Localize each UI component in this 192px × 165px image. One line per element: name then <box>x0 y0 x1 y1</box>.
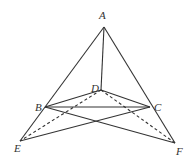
segment-DC <box>101 90 150 107</box>
segment-DE <box>20 90 101 141</box>
label-A: A <box>98 9 106 21</box>
segment-AD <box>101 27 104 90</box>
point-labels: A B C D E F <box>13 9 183 157</box>
label-C: C <box>154 101 162 113</box>
label-B: B <box>35 101 42 113</box>
label-E: E <box>13 142 21 154</box>
label-D: D <box>90 82 99 94</box>
segment-AF <box>104 27 175 143</box>
label-F: F <box>175 145 183 157</box>
geometry-diagram: A B C D E F <box>0 0 192 165</box>
